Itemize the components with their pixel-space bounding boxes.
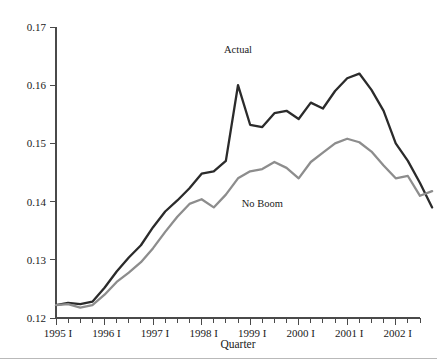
x-tick-label: 1997 I — [141, 327, 170, 339]
axis-lines — [56, 27, 420, 318]
x-tick-label: 1996 I — [92, 327, 121, 339]
y-tick-label: 0.13 — [27, 254, 47, 266]
y-tick-label: 0.14 — [27, 196, 47, 208]
line-chart: 0.120.130.140.150.160.17 1995 I1996 I199… — [0, 0, 437, 363]
footer-divider — [0, 358, 437, 359]
y-tick-label: 0.15 — [27, 137, 47, 149]
x-tick-label: 2001 I — [335, 327, 364, 339]
series-lines — [56, 74, 432, 308]
series-line-no-boom — [56, 139, 432, 308]
x-tick-label: 2002 I — [384, 327, 413, 339]
chart-figure: 0.120.130.140.150.160.17 1995 I1996 I199… — [0, 0, 437, 363]
x-tick-label: 2000 I — [286, 327, 315, 339]
x-tick-marks — [56, 318, 420, 325]
y-tick-label: 0.16 — [27, 79, 47, 91]
y-tick-marks — [50, 27, 56, 318]
y-tick-label: 0.17 — [27, 21, 47, 33]
y-tick-label: 0.12 — [27, 312, 46, 324]
x-tick-label: 1998 I — [189, 327, 218, 339]
axes-group — [56, 27, 420, 318]
series-label-no-boom: No Boom — [242, 198, 283, 209]
series-line-actual — [56, 74, 432, 306]
x-axis-title: Quarter — [220, 338, 255, 350]
y-tick-labels: 0.120.130.140.150.160.17 — [27, 21, 47, 324]
x-tick-label: 1995 I — [44, 327, 73, 339]
series-label-actual: Actual — [224, 44, 252, 55]
